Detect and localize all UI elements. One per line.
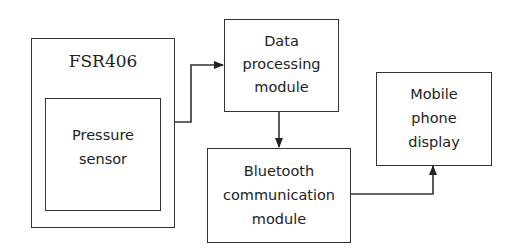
mobile-line2: phone [377, 107, 491, 130]
fsr406-label: FSR406 [32, 50, 174, 73]
arrow-fsr-to-processing [174, 65, 223, 122]
processing-line1: Data [225, 30, 338, 53]
mobile-display-block: Mobile phone display [376, 72, 492, 166]
bluetooth-line3: module [208, 208, 350, 231]
bluetooth-line2: communication [208, 184, 350, 207]
mobile-line3: display [377, 131, 491, 154]
pressure-sensor-line2: sensor [46, 148, 160, 171]
bluetooth-line1: Bluetooth [208, 160, 350, 183]
arrow-bluetooth-to-mobile [350, 166, 433, 194]
mobile-line1: Mobile [377, 83, 491, 106]
pressure-sensor-line1: Pressure [46, 124, 160, 147]
processing-line3: module [225, 76, 338, 99]
pressure-sensor-block: Pressure sensor [45, 98, 161, 211]
bluetooth-block: Bluetooth communication module [207, 148, 351, 243]
data-processing-block: Data processing module [224, 19, 339, 112]
processing-line2: processing [225, 53, 338, 76]
